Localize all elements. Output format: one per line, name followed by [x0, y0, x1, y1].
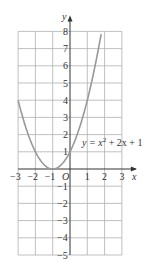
y-tick-label: 6: [63, 60, 68, 71]
y-tick-label: 2: [63, 129, 68, 140]
equation-label: y = x2 + 2x + 1: [81, 136, 142, 148]
x-tick-label: −3: [10, 171, 21, 182]
y-axis-arrow-icon: [68, 15, 73, 21]
x-tick-label: 2: [102, 171, 107, 182]
y-tick-label: −4: [57, 232, 68, 243]
y-tick-label: −2: [57, 198, 68, 209]
y-axis-label: y: [61, 11, 67, 22]
y-tick-label: 4: [63, 95, 68, 106]
x-tick-label: −1: [45, 171, 56, 182]
y-tick-label: 8: [63, 26, 68, 37]
x-tick-label: 1: [85, 171, 90, 182]
y-tick-label: −3: [57, 215, 68, 226]
y-tick-label: 7: [63, 43, 68, 54]
parabola-curve: [18, 34, 101, 169]
x-axis-label: x: [131, 171, 137, 182]
x-tick-label: −2: [27, 171, 38, 182]
x-tick-label: 3: [119, 171, 124, 182]
y-tick-label: 3: [63, 112, 68, 123]
y-tick-label: −1: [57, 181, 68, 192]
parabola-graph: xyO−3−2−112387654321−1−2−3−4−5y = x2 + 2…: [0, 0, 158, 267]
y-tick-label: 5: [63, 78, 68, 89]
y-tick-label: −5: [57, 250, 68, 261]
